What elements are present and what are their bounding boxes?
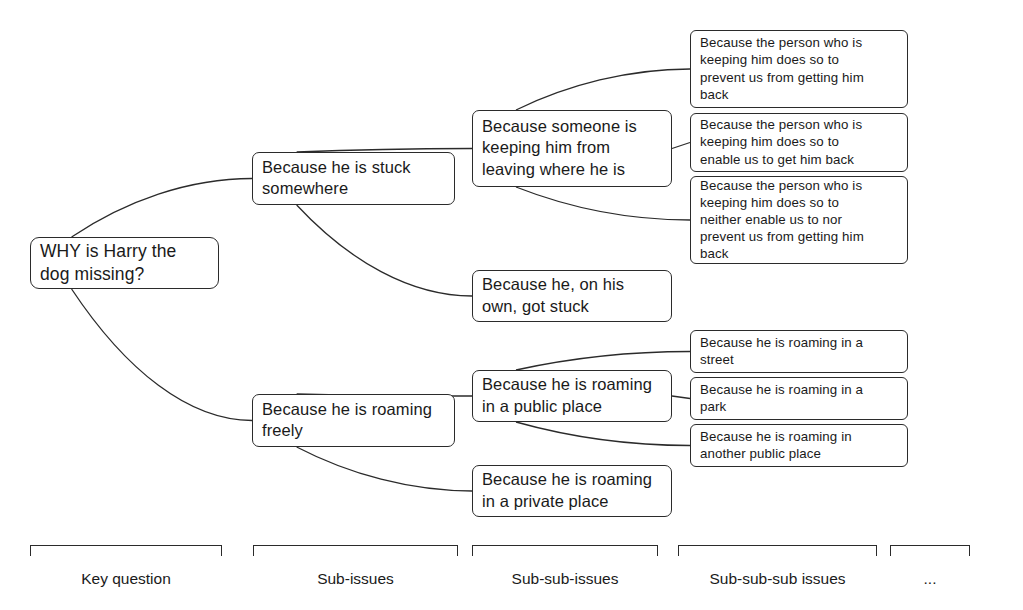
node-on-his-own-got-stuck[interactable]: Because he, on his own, got stuck xyxy=(472,270,672,322)
edge-roaming-public-place-to-roaming-in-a-park xyxy=(672,396,690,399)
node-stuck-somewhere[interactable]: Because he is stuck somewhere xyxy=(252,152,455,205)
node-label: Because someone is keeping him from leav… xyxy=(482,116,637,180)
legend-label-key-question: Key question xyxy=(30,570,222,588)
node-roaming-public-place[interactable]: Because he is roaming in a public place xyxy=(472,370,672,422)
edge-key-question-to-roaming-freely xyxy=(72,289,252,421)
edge-roaming-public-place-to-roaming-in-a-street xyxy=(516,352,690,371)
legend-label-sub-sub-issues: Sub-sub-issues xyxy=(472,570,658,588)
node-label: WHY is Harry the dog missing? xyxy=(40,240,176,286)
legend-bracket-key-question xyxy=(30,545,222,556)
edge-someone-keeping-him-to-enable-us-get-him-back xyxy=(672,143,690,149)
node-label: Because he is roaming freely xyxy=(262,399,432,442)
node-roaming-private-place[interactable]: Because he is roaming in a private place xyxy=(472,465,672,517)
node-someone-keeping-him[interactable]: Because someone is keeping him from leav… xyxy=(472,110,672,187)
node-label: Because he is roaming in a public place xyxy=(482,374,652,417)
node-label: Because he is stuck somewhere xyxy=(262,157,411,200)
node-label: Because he, on his own, got stuck xyxy=(482,274,624,317)
legend-bracket-sub-sub-sub-issues xyxy=(678,545,877,556)
node-roaming-another-public-place[interactable]: Because he is roaming in another public … xyxy=(690,424,908,467)
node-label: Because he is roaming in a private place xyxy=(482,469,652,512)
edge-roaming-public-place-to-roaming-another-public-place xyxy=(516,422,690,446)
node-roaming-in-a-park[interactable]: Because he is roaming in a park xyxy=(690,377,908,420)
edge-key-question-to-stuck-somewhere xyxy=(72,179,252,238)
edge-someone-keeping-him-to-neither-enable-nor-prevent xyxy=(516,187,690,220)
node-neither-enable-nor-prevent[interactable]: Because the person who is keeping him do… xyxy=(690,176,908,264)
legend-label-sub-sub-sub-issues: Sub-sub-sub issues xyxy=(678,570,877,588)
node-roaming-freely[interactable]: Because he is roaming freely xyxy=(252,394,455,447)
legend-bracket-ellipsis xyxy=(890,545,970,556)
node-label: Because he is roaming in a street xyxy=(700,334,863,368)
node-key-question[interactable]: WHY is Harry the dog missing? xyxy=(30,237,219,289)
node-enable-us-get-him-back[interactable]: Because the person who is keeping him do… xyxy=(690,113,908,172)
node-label: Because the person who is keeping him do… xyxy=(700,116,862,167)
edge-stuck-somewhere-to-on-his-own-got-stuck xyxy=(297,205,472,296)
legend-bracket-sub-issues xyxy=(253,545,458,556)
node-label: Because the person who is keeping him do… xyxy=(700,34,864,103)
node-roaming-in-a-street[interactable]: Because he is roaming in a street xyxy=(690,330,908,373)
node-label: Because he is roaming in another public … xyxy=(700,428,852,462)
edge-roaming-freely-to-roaming-private-place xyxy=(297,447,472,491)
legend-label-sub-issues: Sub-issues xyxy=(253,570,458,588)
node-label: Because he is roaming in a park xyxy=(700,381,863,415)
issue-tree-diagram: WHY is Harry the dog missing?Because he … xyxy=(0,0,1023,610)
edge-someone-keeping-him-to-prevent-us-getting-him-back xyxy=(516,69,690,110)
legend-label-ellipsis: ... xyxy=(890,570,970,588)
node-label: Because the person who is keeping him do… xyxy=(700,177,864,263)
node-prevent-us-getting-him-back[interactable]: Because the person who is keeping him do… xyxy=(690,30,908,108)
legend-bracket-sub-sub-issues xyxy=(472,545,658,556)
